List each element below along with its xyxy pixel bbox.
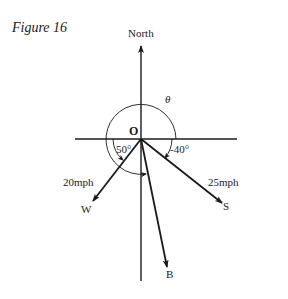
origin-label: O xyxy=(129,124,138,138)
theta-label: θ xyxy=(165,93,171,105)
b-label: B xyxy=(166,268,173,280)
speed-s-label: 25mph xyxy=(208,176,239,188)
s-label: S xyxy=(223,200,229,212)
angle-s-label: -40° xyxy=(170,143,189,155)
north-label: North xyxy=(128,27,154,39)
angle-w-label: 50° xyxy=(116,143,131,155)
w-label: W xyxy=(81,203,92,215)
speed-w-label: 20mph xyxy=(63,176,94,188)
vector-diagram: North θ O 50° -40° 20mph 25mph W S B xyxy=(0,0,288,299)
vector-b xyxy=(141,139,167,267)
